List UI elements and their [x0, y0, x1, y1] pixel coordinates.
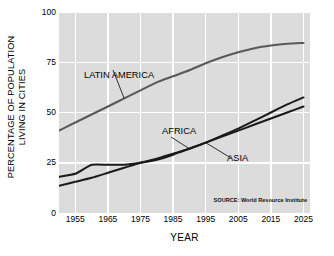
x-tick-label-2015: 2015	[254, 215, 288, 224]
y-axis-tick-labels: 0255075100	[28, 0, 56, 214]
chart-figure: PERCENTAGE OF POPULATION LIVING IN CITIE…	[0, 0, 334, 256]
y-tick-label-0: 0	[30, 209, 56, 218]
x-tick-label-1955: 1955	[58, 215, 92, 224]
x-tick-label-1965: 1965	[91, 215, 125, 224]
x-tick-label-2025: 2025	[286, 215, 320, 224]
x-tick-label-1975: 1975	[123, 215, 157, 224]
series-label-asia: ASIA	[227, 153, 248, 163]
x-tick-label-1985: 1985	[156, 215, 190, 224]
y-tick-label-50: 50	[30, 108, 56, 117]
leader-line-africa	[171, 137, 189, 149]
series-line-africa	[59, 97, 303, 176]
series-label-latin-america: LATIN AMERICA	[84, 70, 154, 80]
x-axis-title: YEAR	[59, 232, 310, 243]
plot-area: LATIN AMERICA AFRICA ASIA SOURCE: World …	[59, 12, 310, 213]
y-tick-label-100: 100	[30, 8, 56, 17]
series-label-africa: AFRICA	[162, 126, 196, 136]
x-tick-label-2005: 2005	[221, 215, 255, 224]
series-lines	[59, 12, 310, 213]
y-axis-title-line1: PERCENTAGE OF POPULATION	[6, 36, 17, 179]
series-line-latin-america	[59, 43, 303, 131]
x-axis-tick-labels: 19551965197519851995200520152025	[59, 215, 310, 227]
x-tick-label-1995: 1995	[189, 215, 223, 224]
source-annotation: SOURCE: World Resource Institute	[214, 197, 307, 203]
y-axis-title-line2: LIVING IN CITIES	[17, 36, 28, 179]
series-line-asia	[59, 106, 303, 185]
y-tick-label-25: 25	[30, 158, 56, 167]
y-tick-label-75: 75	[30, 58, 56, 67]
